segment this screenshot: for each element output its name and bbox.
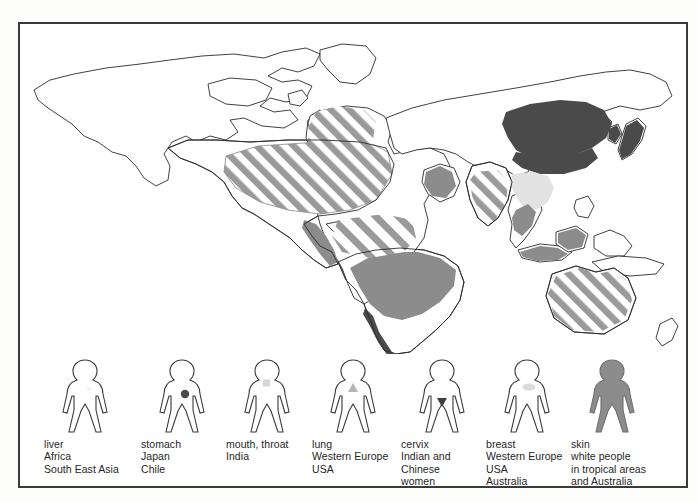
legend-item-mouth-throat[interactable]: mouth, throat India [226, 354, 318, 486]
legend-item-breast[interactable]: breast Western Europe USA Australia [486, 354, 578, 486]
cancer-legend: liver Africa South East Asia stomach Jap… [20, 354, 686, 486]
body-outline-filled [590, 360, 634, 432]
body-outline [245, 360, 289, 432]
body-figure-mouth-throat [236, 356, 298, 434]
legend-line: white people [571, 450, 691, 462]
legend-item-skin[interactable]: skin white people in tropical areas and … [571, 354, 663, 486]
breast-marker-blob-icon [523, 383, 536, 390]
sulawesi-path [594, 230, 632, 256]
stomach-marker-circle-icon [181, 390, 189, 398]
body-figure-stomach [151, 356, 213, 434]
legend-item-lung[interactable]: lung Western Europe USA [312, 354, 404, 486]
legend-line: in tropical areas [571, 463, 691, 475]
legend-item-stomach[interactable]: stomach Japan Chile [141, 354, 233, 486]
legend-item-liver[interactable]: liver Africa South East Asia [44, 354, 136, 486]
legend-label-skin: skin white people in tropical areas and … [571, 438, 691, 488]
legend-item-cervix[interactable]: cervix Indian and Chinese women [401, 354, 493, 486]
legend-line: skin [571, 438, 691, 450]
body-outline [331, 360, 375, 432]
body-figure-breast [496, 356, 558, 434]
body-outline [420, 360, 464, 432]
region-japan [619, 120, 644, 159]
liver-marker-icon [87, 387, 92, 392]
legend-line: and Australia [571, 475, 691, 487]
philippines-path [574, 196, 594, 218]
body-outline [505, 360, 549, 432]
world-map [20, 24, 686, 354]
body-figure-cervix [411, 356, 473, 434]
body-figure-skin [581, 356, 643, 434]
body-outline [63, 360, 107, 432]
mouth-throat-marker-square-icon [263, 380, 270, 387]
body-figure-lung [322, 356, 384, 434]
region-china [502, 100, 612, 160]
world-map-svg [20, 24, 686, 354]
figure-frame: liver Africa South East Asia stomach Jap… [18, 22, 688, 488]
new-zealand-path [656, 318, 678, 346]
body-figure-liver [54, 356, 116, 434]
greenland-path [320, 44, 376, 84]
